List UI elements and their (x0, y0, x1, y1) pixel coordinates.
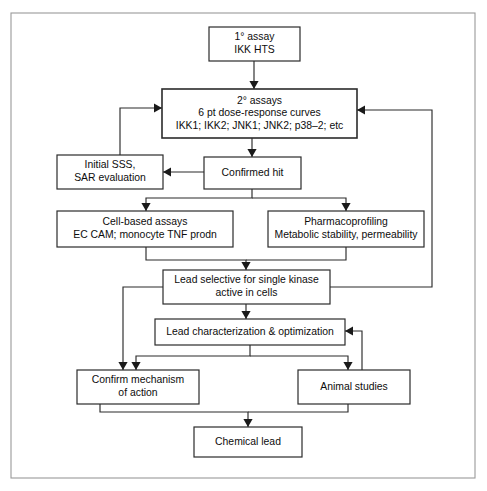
connector-primary-assay-to-secondary-assays-arrowhead (249, 81, 258, 89)
connector-confirmed-hit-split-bus (146, 189, 252, 211)
node-cell-based-assays-label-line-1: Cell-based assays (103, 216, 188, 227)
node-animal-studies[interactable]: Animal studies (298, 370, 410, 404)
node-confirm-mechanism-of-action[interactable]: Confirm mechanismof action (77, 370, 199, 404)
node-chemical-lead[interactable]: Chemical lead (194, 427, 302, 457)
node-animal-studies-label-line-1: Animal studies (320, 381, 388, 392)
node-lead-characterization-optimization[interactable]: Lead characterization & optimization (155, 319, 345, 345)
connector-confirmed-hit-split-bus-arrowhead (141, 203, 150, 211)
connector-lead-characterization-split-bus-arrowhead (131, 362, 140, 370)
connector-confirm-mechanism-to-chemical-lead-arrowhead (243, 419, 252, 427)
node-initial-sss-sar-evaluation[interactable]: Initial SSS,SAR evaluation (57, 155, 163, 189)
connector-lead-selective-feedback-to-secondary-assays-arrowhead (357, 105, 365, 114)
connector-confirmed-hit-to-pharmacoprofiling-arrowhead (341, 203, 350, 211)
connector-initial-sss-feedback-to-secondary-assays-arrowhead (154, 103, 162, 112)
flowchart-svg: 1° assayIKK HTS2° assays6 pt dose-respon… (0, 0, 487, 491)
node-secondary-assays-label-line-3: IKK1; IKK2; JNK1; JNK2; p38–2; etc (176, 120, 344, 131)
connector-secondary-assays-to-confirmed-hit-arrowhead (247, 149, 256, 157)
node-primary-assay-label-line-2: IKK HTS (234, 44, 274, 55)
node-cell-based-assays[interactable]: Cell-based assaysEC CAM; monocyte TNF pr… (57, 211, 233, 247)
node-primary-assay-label-line-1: 1° assay (235, 31, 276, 42)
node-secondary-assays-label-line-1: 2° assays (237, 95, 282, 106)
node-initial-sss-sar-evaluation-label-line-1: Initial SSS, (85, 159, 136, 170)
connector-cell-based-assays-to-lead-selective (146, 247, 246, 270)
node-lead-selective-single-kinase-label-line-2: active in cells (216, 287, 278, 298)
node-cell-based-assays-label-line-2: EC CAM; monocyte TNF prodn (73, 229, 217, 240)
connector-lead-characterization-to-animal-studies (250, 356, 348, 370)
node-pharmacoprofiling[interactable]: PharmacoprofilingMetabolic stability, pe… (268, 211, 424, 247)
connector-cell-based-assays-to-lead-selective-arrowhead (241, 262, 250, 270)
connector-confirm-mechanism-to-chemical-lead (100, 404, 248, 427)
connector-lead-characterization-split-bus (136, 345, 250, 370)
connector-animal-studies-to-chemical-lead (248, 404, 348, 412)
node-chemical-lead-label-line-1: Chemical lead (215, 436, 281, 447)
node-secondary-assays[interactable]: 2° assays6 pt dose-response curvesIKK1; … (162, 89, 357, 138)
node-layer: 1° assayIKK HTS2° assays6 pt dose-respon… (57, 27, 424, 457)
node-confirmed-hit-label-line-1: Confirmed hit (222, 167, 284, 178)
node-confirm-mechanism-of-action-label-line-1: Confirm mechanism (92, 374, 184, 385)
connector-lead-selective-to-confirm-mechanism-arrowhead (118, 362, 127, 370)
connector-lead-characterization-to-animal-studies-arrowhead (343, 362, 352, 370)
connector-confirmed-hit-to-pharmacoprofiling (252, 198, 346, 211)
node-lead-characterization-optimization-label-line-1: Lead characterization & optimization (166, 326, 334, 337)
node-confirm-mechanism-of-action-label-line-2: of action (118, 387, 158, 398)
node-secondary-assays-label-line-2: 6 pt dose-response curves (198, 107, 320, 118)
node-initial-sss-sar-evaluation-label-line-2: SAR evaluation (74, 172, 146, 183)
connector-confirmed-hit-to-initial-sss-arrowhead (163, 167, 171, 176)
connector-initial-sss-feedback-to-secondary-assays (120, 108, 162, 155)
flowchart-canvas: 1° assayIKK HTS2° assays6 pt dose-respon… (0, 0, 487, 491)
node-lead-selective-single-kinase-label-line-1: Lead selective for single kinase (174, 274, 319, 285)
connector-pharmacoprofiling-to-lead-selective (246, 247, 346, 260)
node-lead-selective-single-kinase[interactable]: Lead selective for single kinaseactive i… (163, 270, 330, 304)
node-pharmacoprofiling-label-line-2: Metabolic stability, permeability (274, 229, 418, 240)
node-pharmacoprofiling-label-line-1: Pharmacoprofiling (304, 216, 388, 227)
connector-lead-selective-to-lead-characterization-arrowhead (241, 311, 250, 319)
node-confirmed-hit[interactable]: Confirmed hit (204, 157, 301, 189)
connector-animal-studies-feedback-to-lead-characterization-arrowhead (345, 326, 353, 335)
node-primary-assay[interactable]: 1° assayIKK HTS (209, 27, 300, 61)
